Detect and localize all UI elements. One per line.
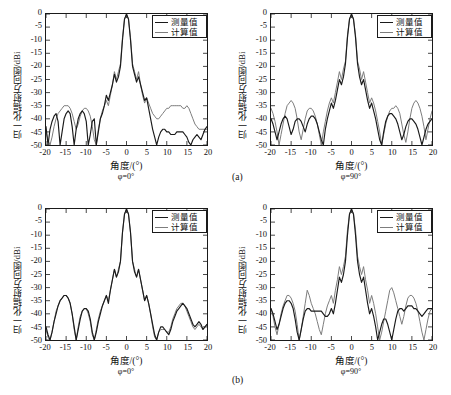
y-tick-label: -25 — [244, 75, 267, 84]
x-axis-title: 角度/(°) — [301, 353, 401, 367]
legend-line-icon — [380, 32, 393, 33]
y-tick-label: -45 — [19, 323, 42, 332]
legend-item-calculated: 计算值 — [155, 222, 203, 232]
y-tick-label: -15 — [244, 243, 267, 252]
y-tick-label: -15 — [19, 243, 42, 252]
y-tick-label: -5 — [244, 216, 267, 225]
y-tick-label: -15 — [19, 48, 42, 57]
y-tick-label: -35 — [244, 101, 267, 110]
x-axis-title: 角度/(°) — [76, 353, 176, 367]
y-tick-label: -45 — [244, 323, 267, 332]
y-axis-title: 归一化辐射方向图/dBi — [238, 22, 247, 139]
legend-label-measured: 测量值 — [171, 17, 198, 27]
y-tick-label: 0 — [19, 8, 42, 17]
legend-line-icon — [380, 227, 393, 228]
panel-letter: (a) — [232, 172, 243, 182]
y-axis-title: 归一化辐射方向图/dBi — [238, 217, 247, 334]
y-tick-label: -25 — [19, 270, 42, 279]
y-tick-label: -20 — [244, 256, 267, 265]
panel-letter: (b) — [232, 375, 243, 385]
legend-panel-a-phi90[interactable]: 测量值计算值 — [377, 15, 432, 38]
y-tick-label: -45 — [244, 128, 267, 137]
y-tick-label: -35 — [19, 101, 42, 110]
x-tick-label: 20 — [420, 343, 446, 352]
legend-item-calculated: 计算值 — [380, 27, 428, 37]
legend-line-icon — [155, 32, 168, 33]
legend-panel-b-phi0[interactable]: 测量值计算值 — [152, 210, 207, 233]
y-tick-label: -20 — [244, 61, 267, 70]
legend-label-measured: 测量值 — [396, 17, 423, 27]
legend-panel-a-phi0[interactable]: 测量值计算值 — [152, 15, 207, 38]
y-tick-label: -40 — [244, 114, 267, 123]
legend-line-icon — [380, 22, 393, 23]
legend-label-calculated: 计算值 — [396, 27, 423, 37]
y-tick-label: -10 — [19, 230, 42, 239]
legend-line-icon — [155, 227, 168, 228]
legend-label-calculated: 计算值 — [171, 222, 198, 232]
x-tick-label: 20 — [195, 343, 221, 352]
y-tick-label: -45 — [19, 128, 42, 137]
legend-item-measured: 测量值 — [380, 17, 428, 27]
legend-line-icon — [155, 217, 168, 218]
legend-label-calculated: 计算值 — [171, 27, 198, 37]
y-tick-label: 0 — [244, 203, 267, 212]
y-tick-label: 0 — [19, 203, 42, 212]
x-tick-label: 20 — [420, 148, 446, 157]
y-tick-label: 0 — [244, 8, 267, 17]
y-tick-label: -30 — [244, 88, 267, 97]
legend-label-measured: 测量值 — [171, 212, 198, 222]
x-axis-title: 角度/(°) — [76, 158, 176, 172]
legend-line-icon — [380, 217, 393, 218]
phi-annotation: φ=0° — [86, 172, 166, 181]
legend-item-calculated: 计算值 — [380, 222, 428, 232]
phi-annotation: φ=90° — [311, 172, 391, 181]
y-axis-title: 归一化辐射方向图/dBi — [13, 22, 22, 139]
phi-annotation: φ=90° — [311, 367, 391, 376]
y-tick-label: -35 — [244, 296, 267, 305]
y-tick-label: -5 — [19, 21, 42, 30]
phi-annotation: φ=0° — [86, 367, 166, 376]
y-tick-label: -40 — [244, 309, 267, 318]
y-tick-label: -30 — [19, 88, 42, 97]
y-tick-label: -15 — [244, 48, 267, 57]
legend-line-icon — [155, 22, 168, 23]
legend-label-calculated: 计算值 — [396, 222, 423, 232]
y-tick-label: -40 — [19, 309, 42, 318]
radiation-pattern-figure: 测量值计算值0-5-10-15-20-25-30-35-40-45-50-20-… — [0, 0, 451, 395]
y-tick-label: -35 — [19, 296, 42, 305]
legend-item-measured: 测量值 — [155, 17, 203, 27]
y-tick-label: -40 — [19, 114, 42, 123]
y-tick-label: -30 — [19, 283, 42, 292]
legend-panel-b-phi90[interactable]: 测量值计算值 — [377, 210, 432, 233]
legend-item-measured: 测量值 — [380, 212, 428, 222]
y-tick-label: -10 — [19, 35, 42, 44]
legend-item-measured: 测量值 — [155, 212, 203, 222]
x-axis-title: 角度/(°) — [301, 158, 401, 172]
y-tick-label: -10 — [244, 35, 267, 44]
y-tick-label: -25 — [19, 75, 42, 84]
y-tick-label: -20 — [19, 61, 42, 70]
y-tick-label: -30 — [244, 283, 267, 292]
y-tick-label: -10 — [244, 230, 267, 239]
y-tick-label: -20 — [19, 256, 42, 265]
y-tick-label: -5 — [19, 216, 42, 225]
y-tick-label: -5 — [244, 21, 267, 30]
legend-label-measured: 测量值 — [396, 212, 423, 222]
y-tick-label: -25 — [244, 270, 267, 279]
legend-item-calculated: 计算值 — [155, 27, 203, 37]
y-axis-title: 归一化辐射方向图/dBi — [13, 217, 22, 334]
x-tick-label: 20 — [195, 148, 221, 157]
